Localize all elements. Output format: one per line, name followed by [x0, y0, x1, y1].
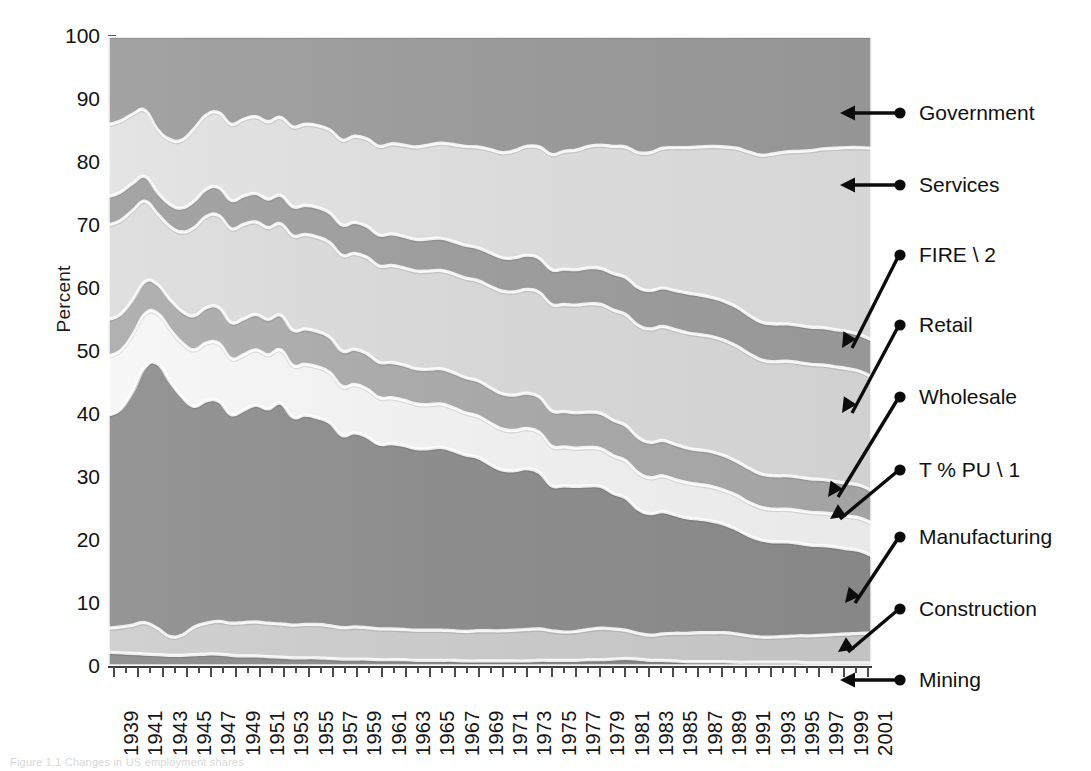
- x-axis-tick-label: 1977: [583, 710, 603, 756]
- x-axis-tick-mark: [794, 666, 796, 677]
- x-axis-tick-mark: [526, 666, 528, 677]
- callout-label-construction: Construction: [919, 598, 1037, 619]
- x-axis-minor-tick: [855, 666, 857, 673]
- x-axis-minor-tick: [222, 666, 224, 673]
- x-axis-tick-label: 1973: [534, 710, 554, 756]
- x-axis-tick-label: 1983: [656, 710, 676, 756]
- x-axis-tick-label: 1985: [680, 710, 700, 756]
- x-axis-minor-tick: [466, 666, 468, 673]
- figure-container: Percent 0102030405060708090100 193919411…: [0, 0, 1091, 771]
- x-axis-minor-tick: [393, 666, 395, 673]
- x-axis-minor-tick: [612, 666, 614, 673]
- x-axis-minor-tick: [733, 666, 735, 673]
- x-axis-minor-tick: [831, 666, 833, 673]
- x-axis-minor-tick: [441, 666, 443, 673]
- x-axis-tick-label: 1951: [267, 710, 287, 756]
- callout-dot: [894, 319, 905, 330]
- callout-dot: [894, 107, 905, 118]
- callout-label-government: Government: [919, 102, 1035, 123]
- x-axis-tick-label: 1995: [802, 710, 822, 756]
- x-axis-minor-tick: [125, 666, 127, 673]
- x-axis-minor-tick: [247, 666, 249, 673]
- x-axis-minor-tick: [685, 666, 687, 673]
- callout-dot: [894, 249, 905, 260]
- callout-dot: [894, 179, 905, 190]
- x-axis-tick-mark: [745, 666, 747, 677]
- x-axis-minor-tick: [514, 666, 516, 673]
- x-axis-tick-mark: [113, 666, 115, 677]
- y-axis-tick-label: 80: [16, 151, 100, 172]
- x-axis-minor-tick: [271, 666, 273, 673]
- x-axis-minor-tick: [490, 666, 492, 673]
- x-axis-minor-tick: [660, 666, 662, 673]
- callout-label-mining: Mining: [919, 669, 981, 690]
- x-axis-tick-mark: [648, 666, 650, 677]
- y-axis-tick-label: 90: [16, 88, 100, 109]
- x-axis-minor-tick: [417, 666, 419, 673]
- x-axis-tick-mark: [454, 666, 456, 677]
- x-axis-tick-mark: [502, 666, 504, 677]
- x-axis-tick-mark: [186, 666, 188, 677]
- x-axis-minor-tick: [539, 666, 541, 673]
- x-axis-tick-mark: [624, 666, 626, 677]
- stacked-area-plot: [108, 36, 872, 666]
- x-axis-tick-mark: [551, 666, 553, 677]
- x-axis-tick-mark: [308, 666, 310, 677]
- x-axis-tick-label: 1991: [753, 710, 773, 756]
- x-axis-tick-mark: [478, 666, 480, 677]
- callout-label-fire-2: FIRE \ 2: [919, 244, 996, 265]
- x-axis-tick-label: 1939: [121, 710, 141, 756]
- y-axis-tick-label: 70: [16, 214, 100, 235]
- x-axis-minor-tick: [636, 666, 638, 673]
- x-axis-tick-mark: [429, 666, 431, 677]
- x-axis-tick-label: 1949: [243, 710, 263, 756]
- x-axis-tick-mark: [697, 666, 699, 677]
- x-axis-tick-mark: [818, 666, 820, 677]
- x-axis-tick-mark: [381, 666, 383, 677]
- y-axis-tick-label: 20: [16, 529, 100, 550]
- x-axis-tick-mark: [283, 666, 285, 677]
- y-axis-tick-label: 10: [16, 592, 100, 613]
- callout-dot: [894, 674, 905, 685]
- x-axis-minor-tick: [174, 666, 176, 673]
- x-axis-tick-label: 1943: [170, 710, 190, 756]
- x-axis-tick-mark: [575, 666, 577, 677]
- x-axis-tick-label: 2001: [875, 710, 895, 756]
- x-axis-tick-label: 1941: [145, 710, 165, 756]
- x-axis-tick-label: 1997: [826, 710, 846, 756]
- y-axis-ticks: 0102030405060708090100: [8, 0, 100, 771]
- x-axis-tick-label: 1959: [364, 710, 384, 756]
- x-axis-tick-label: 1981: [632, 710, 652, 756]
- x-axis-tick-label: 1947: [218, 710, 238, 756]
- x-axis-tick-mark: [259, 666, 261, 677]
- x-axis-tick-mark: [210, 666, 212, 677]
- x-axis-tick-mark: [235, 666, 237, 677]
- x-axis-tickmarks: [108, 666, 872, 678]
- x-axis-minor-tick: [782, 666, 784, 673]
- x-axis-tick-mark: [356, 666, 358, 677]
- x-axis-tick-mark: [770, 666, 772, 677]
- x-axis-minor-tick: [806, 666, 808, 673]
- x-axis-tick-label: 1993: [778, 710, 798, 756]
- x-axis-tick-mark: [332, 666, 334, 677]
- x-axis-tick-label: 1989: [729, 710, 749, 756]
- x-axis-minor-tick: [563, 666, 565, 673]
- x-axis-labels: 1939194119431945194719491951195319551957…: [108, 680, 872, 760]
- x-axis-minor-tick: [320, 666, 322, 673]
- x-axis-minor-tick: [587, 666, 589, 673]
- x-axis-tick-label: 1953: [291, 710, 311, 756]
- callout-label-t-pu-1: T % PU \ 1: [919, 459, 1020, 480]
- x-axis-tick-label: 1987: [705, 710, 725, 756]
- x-axis-minor-tick: [198, 666, 200, 673]
- x-axis-minor-tick: [709, 666, 711, 673]
- figure-caption: Figure 1.1 Changes in US employment shar…: [10, 756, 610, 768]
- x-axis-tick-mark: [162, 666, 164, 677]
- x-axis-tick-label: 1945: [194, 710, 214, 756]
- callout-dot: [894, 391, 905, 402]
- callout-dot: [894, 531, 905, 542]
- x-axis-minor-tick: [758, 666, 760, 673]
- y-axis-tick-label: 100: [16, 25, 100, 46]
- x-axis-minor-tick: [344, 666, 346, 673]
- x-axis-tick-label: 1975: [559, 710, 579, 756]
- callout-label-manufacturing: Manufacturing: [919, 526, 1052, 547]
